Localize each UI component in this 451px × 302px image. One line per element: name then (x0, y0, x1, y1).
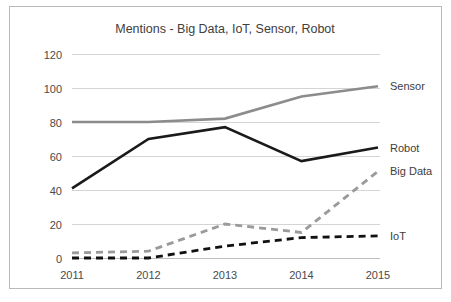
series-label-big-data: Big Data (390, 165, 433, 177)
x-tick-label: 2013 (213, 269, 237, 281)
series-labels: SensorRobotBig DataIoT (390, 80, 433, 242)
series-label-iot: IoT (390, 230, 406, 242)
chart-title: Mentions - Big Data, IoT, Sensor, Robot (115, 22, 335, 36)
x-tick-label: 2014 (289, 269, 313, 281)
series-label-sensor: Sensor (390, 80, 425, 92)
x-axis-tick-labels: 20112012201320142015 (60, 269, 390, 281)
series-label-robot: Robot (390, 142, 419, 154)
y-tick-label: 40 (50, 185, 62, 197)
y-tick-label: 0 (56, 253, 62, 265)
y-tick-label: 20 (50, 219, 62, 231)
x-tick-label: 2011 (60, 269, 84, 281)
y-axis-tick-labels: 020406080100120 (44, 49, 62, 265)
y-tick-label: 80 (50, 117, 62, 129)
mentions-line-chart: Mentions - Big Data, IoT, Sensor, Robot … (10, 7, 441, 288)
series-line-robot (72, 127, 378, 188)
y-tick-label: 60 (50, 151, 62, 163)
y-tick-label: 120 (44, 49, 62, 61)
series-line-iot (72, 236, 378, 258)
y-tick-label: 100 (44, 83, 62, 95)
series-line-sensor (72, 86, 378, 122)
chart-frame: Mentions - Big Data, IoT, Sensor, Robot … (9, 6, 442, 289)
x-tick-label: 2015 (366, 269, 390, 281)
series-line-big-data (72, 171, 378, 253)
series-lines (72, 86, 378, 258)
x-tick-label: 2012 (136, 269, 160, 281)
